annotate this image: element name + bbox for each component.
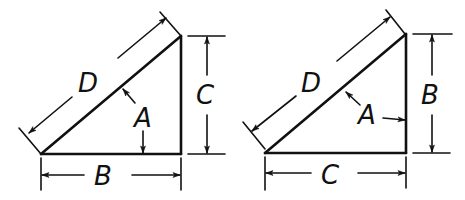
right-triangle-figure: D A C B	[243, 10, 452, 190]
left-label-d: D	[78, 68, 98, 98]
left-d-extension-upper	[160, 12, 181, 36]
right-label-c: C	[321, 160, 340, 190]
right-d-extension-lower	[243, 122, 265, 149]
right-hypotenuse-edge	[265, 34, 406, 153]
right-d-arrow-lower	[252, 96, 296, 131]
left-label-a: A	[132, 103, 152, 133]
right-label-d: D	[301, 68, 321, 98]
triangle-dimension-diagram: D A B C D A	[0, 0, 465, 200]
left-d-arrow-lower	[29, 97, 72, 133]
right-label-b: B	[421, 80, 439, 110]
right-label-a: A	[356, 100, 376, 130]
right-angle-arrow-right	[383, 118, 405, 120]
left-label-c: C	[196, 80, 215, 110]
left-d-arrow-upper	[118, 18, 166, 58]
right-d-extension-upper	[386, 10, 405, 34]
left-triangle-figure: D A B C	[19, 12, 225, 191]
left-hypotenuse-edge	[41, 36, 181, 154]
left-label-b: B	[94, 161, 112, 191]
diagram-canvas: D A B C D A	[0, 0, 465, 200]
left-angle-arrow-upper	[123, 89, 135, 103]
